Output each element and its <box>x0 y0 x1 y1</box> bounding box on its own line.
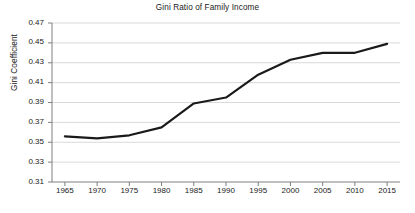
gridlines <box>52 23 400 162</box>
y-axis-tick-label: 0.47 <box>14 18 44 27</box>
y-axis-tick-label: 0.45 <box>14 37 44 46</box>
chart-container: Gini Ratio of Family Income Gini Coeffic… <box>0 0 415 213</box>
y-axis-tick-label: 0.33 <box>14 157 44 166</box>
y-axis-tick-label: 0.35 <box>14 137 44 146</box>
y-axis-tick-label: 0.41 <box>14 77 44 86</box>
x-axis-tick-label: 2015 <box>367 186 407 195</box>
plot-area <box>0 0 415 213</box>
y-axis-tick-label: 0.39 <box>14 97 44 106</box>
y-axis-tick-label: 0.43 <box>14 57 44 66</box>
data-series-line <box>65 44 387 138</box>
y-axis-tick-label: 0.37 <box>14 117 44 126</box>
y-axis-ticks <box>48 23 52 182</box>
y-axis-tick-label: 0.31 <box>14 177 44 186</box>
